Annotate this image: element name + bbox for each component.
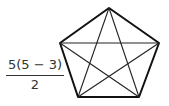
diagonal-line (78, 43, 159, 97)
diagonal-line (60, 43, 139, 97)
diagonal-line (78, 8, 109, 97)
pentagon-diagram (0, 0, 169, 106)
diagonal-line (109, 8, 139, 97)
